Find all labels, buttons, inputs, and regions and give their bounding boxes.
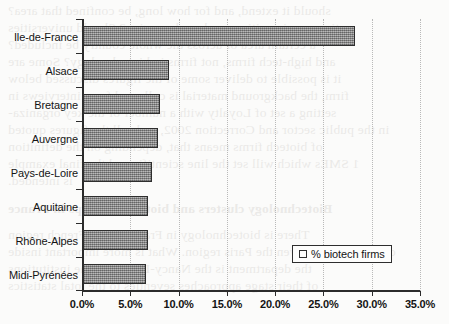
x-axis-tick [82,291,83,296]
x-tick-label-25: 25.0% [308,298,338,310]
y-tick-label: Rhône-Alpes [16,235,79,247]
x-tick-label-15: 15.0% [212,298,242,310]
x-axis-tick [420,291,421,296]
y-label-ile-de-france: Ile-de-France [0,31,78,44]
y-axis-tick [76,155,82,156]
y-axis-tick [76,223,82,224]
x-tick-label-0: 0.0% [70,298,94,310]
gridline-20 [275,19,276,291]
x-tick-label-35: 35.0% [405,298,435,310]
gridline-35 [420,19,421,291]
y-label-auvergne: Auvergne [0,133,78,146]
bar-midi-pyrenees [83,264,146,284]
y-label-pays-de-loire: Pays-de-Loire [0,167,78,180]
gridline-10 [179,19,180,291]
chart-legend: % biotech firms [292,245,392,263]
horizontal-bar-chart: 0.0% 5.0% 10.0% 15.0% 20.0% 25.0% 30.0% … [0,0,449,324]
y-tick-label: Bretagne [34,99,78,111]
bar-rhone-alpes [83,230,148,250]
x-axis-tick [179,291,180,296]
x-axis-tick [323,291,324,296]
bar-auvergne [83,128,158,148]
y-label-aquitaine: Aquitaine [0,201,78,214]
y-tick-label: Midi-Pyrénées [9,269,78,281]
y-tick-label: Aquitaine [33,201,78,213]
y-label-alsace: Alsace [0,65,78,78]
bar-ile-de-france [83,26,355,46]
x-axis-tick [227,291,228,296]
legend-label: % biotech firms [311,248,385,260]
x-axis-tick [372,291,373,296]
x-tick-label-20: 20.0% [260,298,290,310]
x-axis-tick [130,291,131,296]
y-tick-label: Auvergne [32,133,78,145]
y-axis-tick [76,257,82,258]
legend-swatch-icon [299,250,307,258]
x-tick-label-30: 30.0% [357,298,387,310]
y-tick-label: Ile-de-France [14,31,78,43]
x-tick-label-5: 5.0% [118,298,142,310]
y-axis-tick [76,121,82,122]
bar-pays-de-loire [83,162,152,182]
x-axis-line [82,290,420,292]
y-axis-tick [76,87,82,88]
y-label-rhone-alpes: Rhône-Alpes [0,235,78,248]
y-axis-tick [76,19,82,20]
x-tick-label-10: 10.0% [163,298,193,310]
x-axis-tick [275,291,276,296]
y-tick-label: Alsace [46,65,78,77]
bar-alsace [83,60,169,80]
bar-aquitaine [83,196,148,216]
y-axis-tick [76,53,82,54]
y-label-midi-pyrenees: Midi-Pyrénées [0,269,78,282]
y-axis-tick [76,189,82,190]
bar-bretagne [83,94,160,114]
y-tick-label: Pays-de-Loire [11,167,78,179]
gridline-15 [227,19,228,291]
y-label-bretagne: Bretagne [0,99,78,112]
